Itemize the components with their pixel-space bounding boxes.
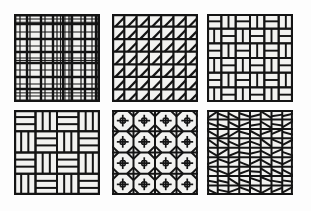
octagon-square-pattern	[112, 110, 198, 195]
basketweave-small-pattern	[207, 14, 293, 102]
tiling-pattern-grid-figure	[0, 0, 311, 211]
plaid-grid-pattern	[14, 14, 100, 102]
parquet-weave-pattern	[14, 110, 100, 195]
diagonal-chamfer-grid-pattern	[112, 14, 198, 102]
random-diagonal-grid-pattern	[207, 110, 293, 195]
